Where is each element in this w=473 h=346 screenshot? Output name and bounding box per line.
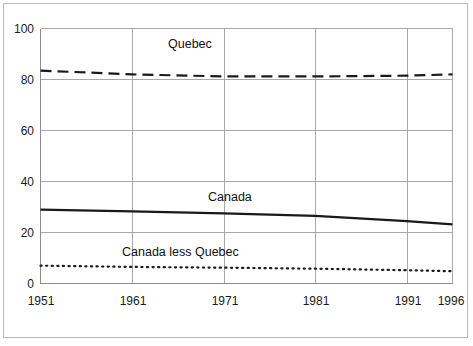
y-tick-label-20: 20 bbox=[4, 226, 34, 240]
y-tick-label-100: 100 bbox=[4, 22, 34, 36]
y-tick-label-60: 60 bbox=[4, 124, 34, 138]
y-tick-label-80: 80 bbox=[4, 73, 34, 87]
x-tick-label-1971: 1971 bbox=[205, 294, 245, 308]
x-tick-label-1996: 1996 bbox=[431, 294, 471, 308]
x-tick-label-1991: 1991 bbox=[388, 294, 428, 308]
series-line-quebec bbox=[41, 71, 453, 77]
x-tick-label-1951: 1951 bbox=[21, 294, 61, 308]
series-annotation-canada-less-quebec: Canada less Quebec bbox=[122, 245, 239, 259]
x-tick-label-1961: 1961 bbox=[113, 294, 153, 308]
series-annotation-quebec: Quebec bbox=[168, 37, 212, 51]
series-line-canada-less-quebec bbox=[41, 266, 453, 272]
y-tick-label-0: 0 bbox=[4, 277, 34, 291]
y-tick-label-40: 40 bbox=[4, 175, 34, 189]
series-line-canada bbox=[41, 210, 453, 225]
series-annotation-canada: Canada bbox=[208, 190, 252, 204]
x-tick-label-1981: 1981 bbox=[296, 294, 336, 308]
